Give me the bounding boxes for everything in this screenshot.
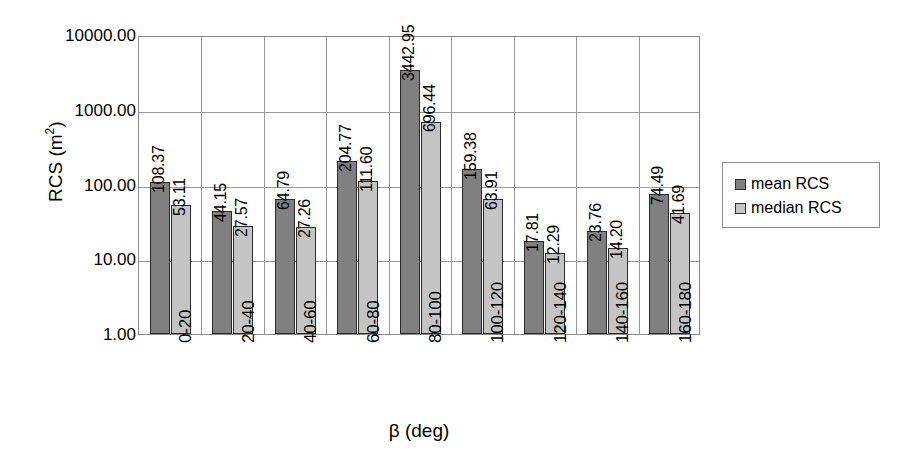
y-axis-tick-label: 1.00 [16,326,136,343]
x-axis-tick-label: 140-160 [614,282,631,343]
bar-value-label: 44.15 [213,183,229,222]
bar-mean [150,182,170,334]
y-axis-tick-label: 1000.00 [16,102,136,119]
bar-mean [212,211,232,334]
bar-value-label: 204.77 [338,124,354,172]
bar-mean [275,199,295,334]
bar-value-label: 159.38 [463,133,479,181]
gridline-vertical [514,37,515,334]
bar-value-label: 12.29 [546,225,562,264]
legend-label-median: median RCS [751,200,842,216]
y-axis-title-paren: ) [45,121,66,127]
x-axis-tick-label: 20-40 [240,301,257,343]
gridline-vertical [451,37,452,334]
y-axis-title: RCS (m2) [43,102,66,222]
bar-value-label: 64.79 [276,171,292,210]
x-axis-tick-label: 80-100 [427,291,444,343]
bar-mean [587,231,607,334]
bar-value-label: 14.20 [609,220,625,259]
x-axis-tick-label: 160-180 [677,282,694,343]
legend-swatch-mean-icon [735,179,746,190]
gridline-vertical [201,37,202,334]
legend-item-mean: mean RCS [735,172,879,196]
bar-mean [524,241,544,334]
x-axis-tick-label: 120-140 [552,282,569,343]
bar-mean [337,161,357,334]
chart-legend: mean RCS median RCS [722,162,880,228]
y-axis-tick-label: 10.00 [16,251,136,268]
bar-value-label: 27.26 [297,199,313,238]
legend-label-mean: mean RCS [751,176,829,192]
gridline-vertical [639,37,640,334]
y-axis-tick-label: 100.00 [16,177,136,194]
bar-value-label: 74.49 [650,166,666,205]
gridline-vertical [576,37,577,334]
x-axis-title: β (deg) [138,420,700,442]
rcs-bar-chart: RCS (m2) 10000.001000.00100.0010.001.00 … [0,0,920,459]
bar-mean [400,70,420,334]
bar-value-label: 23.76 [588,203,604,242]
y-axis-tick-label: 10000.00 [16,27,136,44]
bar-value-label: 41.69 [671,185,687,224]
bar-value-label: 17.81 [525,212,541,251]
legend-item-median: median RCS [735,196,879,220]
gridline-vertical [389,37,390,334]
x-axis-tick-label: 60-80 [365,301,382,343]
x-axis-tick-label: 100-120 [489,282,506,343]
y-axis-title-exponent: 2 [43,128,57,135]
bar-value-label: 27.57 [234,198,250,237]
bar-value-label: 53.11 [172,178,188,216]
bar-value-label: 111.60 [359,147,375,192]
bar-value-label: 63.91 [484,171,500,210]
bar-mean [649,194,669,334]
gridline-vertical [326,37,327,334]
legend-swatch-median-icon [735,203,746,214]
gridline-vertical [264,37,265,334]
bar-value-label: 696.44 [422,85,438,133]
x-axis-tick-label: 0-20 [177,310,194,343]
bar-value-label: 3442.95 [401,24,417,80]
bar-mean [462,169,482,334]
x-axis-tick-label: 40-60 [302,301,319,343]
bar-value-label: 108.37 [151,145,167,193]
